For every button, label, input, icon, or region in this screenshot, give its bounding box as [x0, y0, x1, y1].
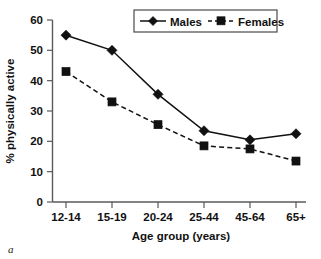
data-point-males-45-64 [245, 135, 255, 145]
x-tick-label-15-19: 15-19 [97, 211, 126, 223]
legend-label-males: Males [170, 16, 202, 28]
data-point-males-65plus [291, 129, 301, 139]
y-axis-ticks [47, 20, 53, 202]
series-markers-males [61, 30, 301, 145]
x-tick-label-65plus: 65+ [286, 211, 306, 223]
data-point-females-25-44 [200, 142, 208, 150]
y-tick-label-0: 0 [37, 196, 43, 208]
y-axis-title: % physically active [4, 59, 16, 164]
series-line-males [66, 35, 296, 140]
x-tick-label-20-24: 20-24 [143, 211, 173, 223]
physical-activity-line-chart: 60 50 40 30 20 10 0 12-14 15-19 20-24 25… [0, 0, 321, 259]
y-tick-label-60: 60 [30, 14, 43, 26]
chart-legend: Males Females [134, 10, 284, 32]
y-tick-label-30: 30 [30, 105, 43, 117]
legend-marker-square-icon [217, 17, 225, 25]
data-point-males-12-14 [61, 30, 71, 40]
data-point-females-15-19 [108, 98, 116, 106]
legend-label-females: Females [238, 16, 284, 28]
x-tick-label-12-14: 12-14 [51, 211, 81, 223]
chart-figure: 60 50 40 30 20 10 0 12-14 15-19 20-24 25… [0, 0, 321, 259]
series-line-females [66, 72, 296, 161]
data-point-females-12-14 [62, 68, 70, 76]
series-markers-females [62, 68, 300, 165]
data-point-females-45-64 [246, 145, 254, 153]
y-tick-label-50: 50 [30, 44, 43, 56]
y-tick-label-10: 10 [30, 166, 43, 178]
x-axis-title: Age group (years) [132, 230, 231, 242]
y-tick-label-20: 20 [30, 135, 43, 147]
data-point-females-20-24 [154, 121, 162, 129]
y-tick-label-40: 40 [30, 75, 43, 87]
x-tick-label-45-64: 45-64 [235, 211, 265, 223]
x-tick-label-25-44: 25-44 [189, 211, 219, 223]
panel-label: a [8, 243, 14, 255]
data-point-females-65plus [292, 157, 300, 165]
x-axis-ticks [66, 202, 296, 208]
